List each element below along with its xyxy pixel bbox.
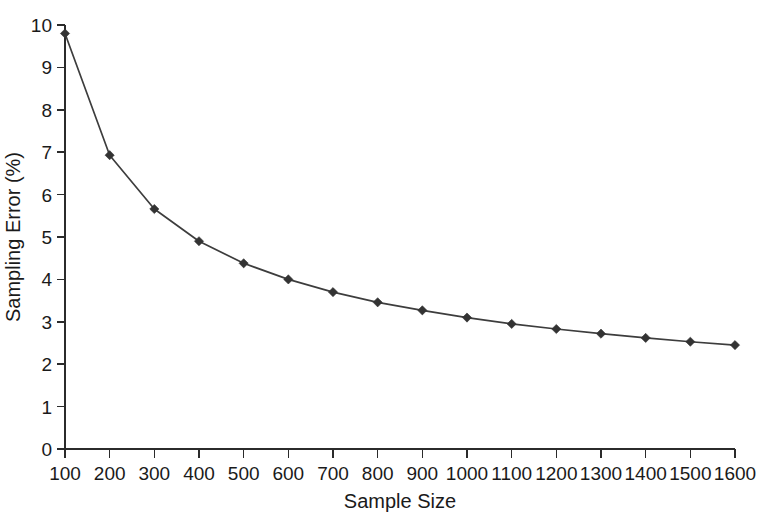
- data-point-marker: [60, 29, 69, 38]
- x-tick-label: 1400: [625, 463, 667, 484]
- data-point-marker: [373, 298, 382, 307]
- y-tick-label: 3: [41, 312, 52, 333]
- x-tick-label: 700: [317, 463, 349, 484]
- sampling-error-chart: 012345678910 100200300400500600700800900…: [0, 0, 764, 521]
- data-point-marker: [418, 306, 427, 315]
- y-tick-label: 10: [31, 15, 52, 36]
- y-axis-title: Sampling Error (%): [2, 152, 24, 322]
- y-tick-label: 7: [41, 142, 52, 163]
- data-point-marker: [507, 319, 516, 328]
- x-tick-label: 1200: [535, 463, 577, 484]
- y-tick-label: 6: [41, 185, 52, 206]
- x-tick-label: 1500: [669, 463, 711, 484]
- x-tick-label: 600: [272, 463, 304, 484]
- x-tick-label: 1300: [580, 463, 622, 484]
- axis-titles: Sample SizeSampling Error (%): [2, 152, 456, 512]
- data-point-marker: [462, 313, 471, 322]
- series-polyline: [65, 33, 735, 345]
- data-point-marker: [552, 324, 561, 333]
- data-point-marker: [284, 275, 293, 284]
- y-tick-label: 4: [41, 269, 52, 290]
- data-series-line: [65, 33, 735, 345]
- x-tick-label: 400: [183, 463, 215, 484]
- x-tick-label: 100: [49, 463, 81, 484]
- x-tick-label: 500: [228, 463, 260, 484]
- y-axis: 012345678910: [31, 15, 65, 460]
- x-axis: 1002003004005006007008009001000110012001…: [49, 449, 756, 484]
- data-point-marker: [686, 337, 695, 346]
- data-point-markers: [60, 29, 739, 350]
- data-point-marker: [328, 288, 337, 297]
- y-tick-label: 0: [41, 439, 52, 460]
- x-tick-label: 1100: [491, 463, 532, 484]
- x-axis-title: Sample Size: [344, 490, 456, 512]
- data-point-marker: [596, 329, 605, 338]
- x-tick-label: 900: [406, 463, 438, 484]
- data-point-marker: [730, 341, 739, 350]
- y-tick-label: 5: [41, 227, 52, 248]
- data-point-marker: [641, 333, 650, 342]
- chart-canvas: 012345678910 100200300400500600700800900…: [0, 0, 764, 521]
- y-tick-label: 2: [41, 354, 52, 375]
- x-tick-label: 1000: [446, 463, 488, 484]
- y-tick-label: 8: [41, 100, 52, 121]
- data-point-marker: [239, 259, 248, 268]
- x-tick-label: 300: [138, 463, 170, 484]
- x-tick-label: 1600: [714, 463, 756, 484]
- x-tick-label: 800: [362, 463, 394, 484]
- x-tick-label: 200: [94, 463, 126, 484]
- y-tick-label: 9: [41, 57, 52, 78]
- y-tick-label: 1: [41, 397, 52, 418]
